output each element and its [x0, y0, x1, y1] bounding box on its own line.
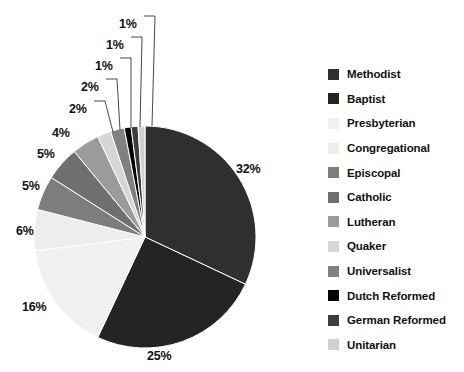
percent-label-quaker: 2% — [69, 103, 87, 116]
leader-line-universalist — [106, 79, 120, 130]
legend-item-label: Presbyterian — [347, 117, 415, 129]
legend-swatch-icon — [328, 192, 339, 203]
legend-item-methodist[interactable]: Methodist — [328, 62, 464, 87]
legend-swatch-icon — [328, 266, 339, 277]
percent-label-unitarian: 1% — [119, 18, 137, 31]
legend-swatch-icon — [328, 339, 339, 350]
legend-item-label: Episcopal — [347, 167, 400, 179]
legend-swatch-icon — [328, 93, 339, 104]
legend-item-dutch-reformed[interactable]: Dutch Reformed — [328, 283, 464, 308]
chart-canvas: 32%25%16%6%5%5%4%2%2%1%1%1% MethodistBap… — [0, 0, 464, 372]
legend-item-label: Dutch Reformed — [347, 290, 435, 302]
legend-swatch-icon — [328, 290, 339, 301]
legend-item-label: Quaker — [347, 240, 386, 252]
percent-label-dutch-reformed: 1% — [95, 60, 113, 73]
legend-item-label: Congregational — [347, 142, 430, 154]
legend-item-label: Lutheran — [347, 216, 395, 228]
percent-label-methodist: 32% — [236, 163, 260, 176]
legend-swatch-icon — [328, 69, 339, 80]
leader-line-unitarian — [144, 16, 155, 126]
legend-item-baptist[interactable]: Baptist — [328, 87, 464, 112]
legend-item-label: Methodist — [347, 68, 400, 80]
percent-label-lutheran: 4% — [52, 127, 70, 140]
legend-item-catholic[interactable]: Catholic — [328, 185, 464, 210]
legend-item-episcopal[interactable]: Episcopal — [328, 160, 464, 185]
legend-item-label: Catholic — [347, 191, 392, 203]
legend-item-german-reformed[interactable]: German Reformed — [328, 308, 464, 333]
leader-line-german-reformed — [131, 37, 142, 127]
percent-label-universalist: 2% — [81, 81, 99, 94]
legend-item-unitarian[interactable]: Unitarian — [328, 333, 464, 358]
legend-item-congregational[interactable]: Congregational — [328, 136, 464, 161]
legend-swatch-icon — [328, 315, 339, 326]
percent-label-german-reformed: 1% — [106, 39, 124, 52]
legend-item-label: Unitarian — [347, 339, 396, 351]
legend-swatch-icon — [328, 143, 339, 154]
percent-label-episcopal: 5% — [22, 180, 40, 193]
leader-line-group — [94, 16, 155, 132]
legend-item-lutheran[interactable]: Lutheran — [328, 210, 464, 235]
legend-swatch-icon — [328, 167, 339, 178]
pie-slice-group — [34, 126, 256, 348]
legend-item-quaker[interactable]: Quaker — [328, 234, 464, 259]
leader-line-dutch-reformed — [120, 58, 131, 128]
leader-line-quaker — [94, 101, 113, 132]
legend-item-universalist[interactable]: Universalist — [328, 259, 464, 284]
percent-label-congregational: 6% — [16, 225, 34, 238]
percent-label-presbyterian: 16% — [22, 301, 46, 314]
legend: MethodistBaptistPresbyterianCongregation… — [328, 62, 464, 357]
legend-item-label: German Reformed — [347, 314, 446, 326]
percent-label-baptist: 25% — [147, 350, 171, 363]
legend-item-label: Baptist — [347, 93, 385, 105]
legend-swatch-icon — [328, 118, 339, 129]
legend-item-label: Universalist — [347, 265, 411, 277]
legend-swatch-icon — [328, 241, 339, 252]
legend-swatch-icon — [328, 216, 339, 227]
legend-item-presbyterian[interactable]: Presbyterian — [328, 111, 464, 136]
percent-label-catholic: 5% — [37, 148, 55, 161]
